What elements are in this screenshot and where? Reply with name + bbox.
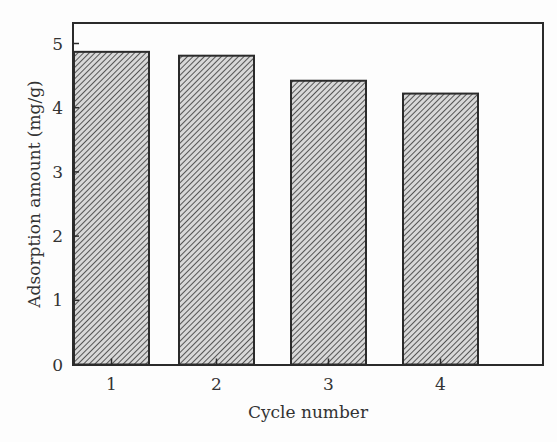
x-tick-label: 4 <box>435 374 446 394</box>
bar-cycle-1 <box>74 52 149 365</box>
bar-cycle-3 <box>291 81 366 365</box>
bar-cycle-4 <box>403 94 478 365</box>
x-tick-label: 2 <box>211 374 222 394</box>
y-tick-label: 4 <box>52 98 63 118</box>
x-tick-label: 3 <box>323 374 334 394</box>
y-tick-label: 3 <box>52 162 63 182</box>
x-axis-label: Cycle number <box>248 402 369 422</box>
bar-cycle-2 <box>179 56 254 365</box>
bar-chart: 012345 1234 Cycle number Adsorption amou… <box>0 0 557 442</box>
x-tick-label: 1 <box>106 374 117 394</box>
y-tick-label: 2 <box>52 226 63 246</box>
bars-group <box>74 52 478 365</box>
y-tick-label: 0 <box>52 355 63 375</box>
y-tick-label: 1 <box>52 290 63 310</box>
y-axis-label: Adsorption amount (mg/g) <box>24 80 44 308</box>
x-axis: 1234 <box>106 359 446 394</box>
y-tick-label: 5 <box>52 34 63 54</box>
